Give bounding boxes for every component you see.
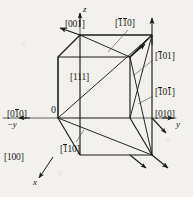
x-axis-arrow <box>39 157 53 178</box>
direction-01bar0: [010] <box>7 110 27 120</box>
direction-010-suffix: ] <box>172 109 175 119</box>
diagram-canvas <box>0 0 193 197</box>
direction-001: [001] <box>65 20 85 30</box>
direction-1bar01bar-d3: 1 <box>167 88 172 98</box>
leader-1bar01bar <box>138 96 153 104</box>
axis-label-z: z <box>83 5 86 14</box>
vector-top-face-diagonal <box>80 35 130 57</box>
direction-100: [100] <box>4 153 24 163</box>
direction-111-suffix: ] <box>86 72 89 82</box>
axis-label-x: x <box>33 178 37 187</box>
direction-1bar01bar: [101] <box>155 88 175 98</box>
cube-edge-connect-top-left <box>58 35 80 57</box>
direction-1bar01bar-suffix: ] <box>172 87 175 97</box>
direction-1bar1bar0: [110] <box>115 19 135 29</box>
direction-1bar10-suffix: ] <box>77 144 80 154</box>
direction-1bar10-d1: 1 <box>63 145 68 155</box>
leader-1bar1bar0 <box>108 30 128 52</box>
direction-1bar1bar0-suffix: ] <box>132 18 135 28</box>
crystal-direction-figure: z y −y x 0 [001][110][101][101][010][010… <box>0 0 193 197</box>
direction-1bar1bar0-d2: 1 <box>123 19 128 29</box>
direction-1bar01bar-d1: 1 <box>158 88 163 98</box>
arrow-bottom-right <box>130 155 146 168</box>
direction-1bar01-d1: 1 <box>158 52 163 62</box>
arrow-1bar10-tip <box>152 155 168 168</box>
arrow-010-tip <box>152 118 166 133</box>
direction-001-suffix: ] <box>82 19 85 29</box>
direction-111: [111] <box>70 73 89 83</box>
direction-100-suffix: ] <box>21 152 24 162</box>
axis-label-y: y <box>176 120 180 129</box>
direction-1bar01: [101] <box>155 52 175 62</box>
direction-01bar0-d2: 1 <box>15 110 20 120</box>
axis-label-negative-y: −y <box>7 120 17 129</box>
leader-1bar01 <box>133 60 153 76</box>
direction-010: [010] <box>155 110 175 120</box>
direction-1bar01-suffix: ] <box>172 51 175 61</box>
cube-edge-connect-bottom-right <box>130 118 152 155</box>
origin-label: 0 <box>51 105 56 115</box>
direction-01bar0-suffix: ] <box>24 109 27 119</box>
arrow-1bar01 <box>130 44 145 57</box>
direction-1bar10: [110] <box>60 145 80 155</box>
